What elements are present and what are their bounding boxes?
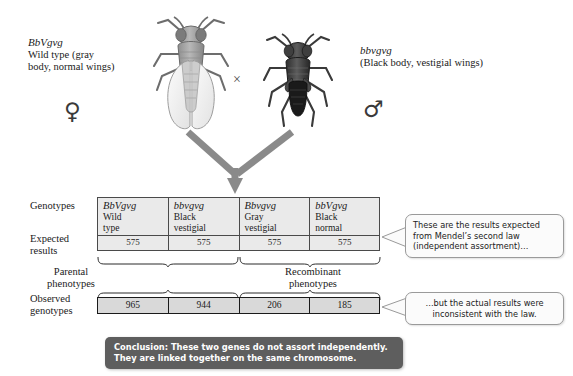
observed-callout-tail: [380, 297, 408, 321]
table-cell-genotype-3: Bbvgvg Gray vestigial: [239, 197, 310, 236]
row-label-expected-line2: results: [30, 245, 69, 257]
row-label-observed-line2: genotypes: [30, 305, 73, 317]
observed-value-2: 944: [168, 297, 239, 314]
observed-callout-line1: …but the actual results were: [413, 298, 556, 309]
brace-caption-parental-line1: Parental: [0, 266, 146, 278]
table-cell-genotype-4: bbVgvg Black normal: [309, 197, 380, 236]
black-vestigial-fly: [263, 32, 333, 132]
observed-value-4: 185: [309, 297, 380, 314]
genotype-3: Bbvgvg: [245, 200, 310, 211]
phenotype-4-line1: Black: [315, 212, 337, 222]
male-description-line1: (Black body, vestigial wings): [360, 57, 483, 70]
expected-value-2: 575: [168, 236, 239, 251]
phenotype-4-line2: normal: [315, 223, 342, 233]
genotype-1: BbVgvg: [103, 200, 168, 211]
table-cell-genotype-1: BbVgvg Wild type: [97, 197, 168, 236]
conclusion-line1: Conclusion: These two genes do not assor…: [114, 342, 394, 353]
male-genotype: bbvgvg: [360, 44, 483, 57]
observed-callout-line2: inconsistent with the law.: [413, 309, 556, 320]
female-symbol: ♀: [64, 100, 81, 123]
phenotype-3-line1: Gray: [245, 212, 264, 222]
expected-value-1: 575: [97, 236, 168, 251]
genotype-4: bbVgvg: [315, 200, 379, 211]
female-description-line1: Wild type (gray: [28, 49, 115, 62]
row-label-expected-line1: Expected: [30, 233, 69, 245]
table-cell-genotype-2: bbvgvg Black vestigial: [168, 197, 239, 236]
cross-arrow: [140, 128, 330, 200]
expected-results-row: 575 575 575 575: [97, 236, 380, 251]
male-parent-label: bbvgvg (Black body, vestigial wings): [360, 44, 483, 69]
phenotype-3-line2: vestigial: [245, 223, 277, 233]
genotype-expected-table: BbVgvg Wild type bbvgvg Black vestigial …: [97, 197, 380, 251]
genotype-row: BbVgvg Wild type bbvgvg Black vestigial …: [97, 197, 380, 236]
expected-callout-line1: These are the results expected: [413, 220, 556, 231]
observed-value-1: 965: [97, 297, 168, 314]
brace-caption-recombinant-line1: Recombinant: [238, 266, 388, 278]
phenotype-2-line2: vestigial: [174, 223, 206, 233]
female-parent-label: BbVgvg Wild type (gray body, normal wing…: [28, 36, 115, 74]
row-label-expected: Expected results: [30, 233, 69, 257]
expected-value-4: 575: [309, 236, 380, 251]
row-label-observed-line1: Observed: [30, 293, 73, 305]
phenotype-2-line1: Black: [174, 212, 196, 222]
observed-value-3: 206: [239, 297, 310, 314]
male-symbol: ♂: [363, 98, 384, 121]
phenotype-1-line2: type: [103, 223, 119, 233]
expected-callout-tail: [380, 226, 408, 252]
gray-wild-type-fly: [152, 14, 230, 136]
genotype-2: bbvgvg: [174, 200, 239, 211]
row-label-observed: Observed genotypes: [30, 293, 73, 317]
row-label-genotypes: Genotypes: [30, 200, 75, 212]
female-description-line2: body, normal wings): [28, 61, 115, 74]
expected-callout-line3: (independent assortment)…: [413, 241, 556, 252]
expected-callout-line2: from Mendel’s second law: [413, 231, 556, 242]
conclusion-bar: Conclusion: These two genes do not assor…: [105, 337, 403, 369]
expected-value-3: 575: [239, 236, 310, 251]
cross-symbol: ×: [233, 72, 241, 88]
female-genotype: BbVgvg: [28, 36, 115, 49]
phenotype-1-line1: Wild: [103, 212, 122, 222]
observed-genotypes-row: 965 944 206 185: [97, 297, 380, 314]
conclusion-line2: They are linked together on the same chr…: [114, 353, 394, 364]
expected-callout: These are the results expected from Mend…: [405, 214, 564, 258]
observed-callout: …but the actual results were inconsisten…: [405, 292, 564, 325]
